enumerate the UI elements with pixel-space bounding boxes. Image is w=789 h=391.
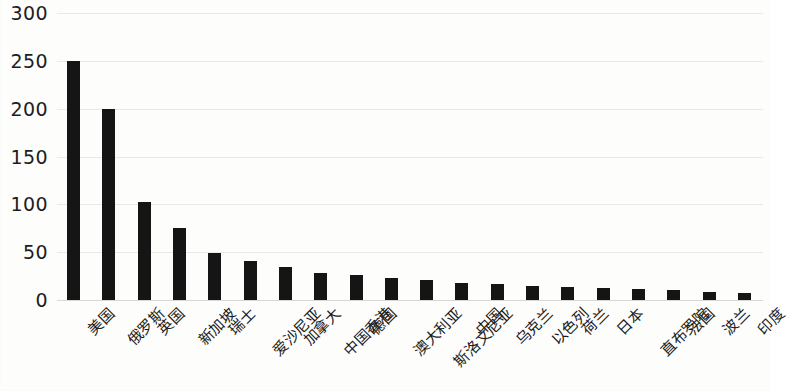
bar (632, 289, 645, 300)
x-tick-label: 印度 (756, 306, 788, 338)
bar (173, 228, 186, 300)
bar (279, 267, 292, 300)
x-tick-label: 乌克兰 (513, 306, 555, 348)
bar (703, 292, 716, 300)
x-axis: 美国俄罗斯英国新加坡瑞士爱沙尼亚加拿大中国香港德国澳大利亚斯洛文尼亚中国乌克兰以… (57, 300, 763, 391)
bar (597, 288, 610, 300)
y-tick-label-300: 300 (11, 4, 48, 23)
bar (561, 287, 574, 300)
bar (314, 273, 327, 300)
bar (208, 253, 221, 300)
x-tick-label: 日本 (615, 306, 647, 338)
plot-area (57, 13, 763, 300)
bar (420, 280, 433, 300)
bar (102, 109, 115, 300)
bar (385, 278, 398, 300)
bars-group (57, 13, 763, 300)
x-tick-label: 美国 (85, 306, 117, 338)
y-tick-label-150: 150 (11, 148, 48, 167)
bar (738, 293, 751, 300)
y-tick-label-0: 0 (36, 291, 49, 310)
bar (455, 283, 468, 300)
y-tick-label-50: 50 (23, 243, 48, 262)
bar (350, 275, 363, 300)
y-axis: 300250200150100500 (0, 0, 48, 391)
y-tick-label-200: 200 (11, 100, 48, 119)
y-tick-label-250: 250 (11, 52, 48, 71)
bar (67, 61, 80, 300)
x-tick-label: 波兰 (721, 306, 753, 338)
y-tick-label-100: 100 (11, 195, 48, 214)
bar (491, 284, 504, 300)
bar (244, 261, 257, 300)
bar (526, 286, 539, 300)
bar (138, 202, 151, 300)
bar (667, 290, 680, 300)
